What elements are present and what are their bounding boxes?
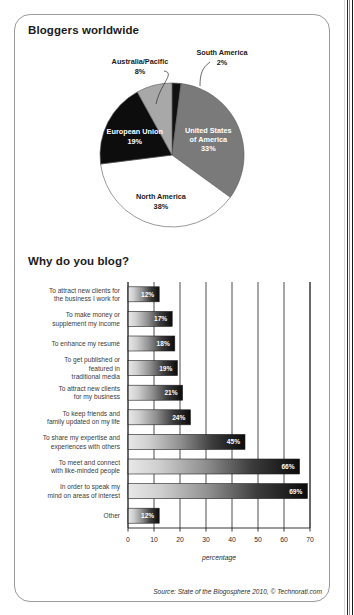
pie-chart: United Statesof America33%European Union…: [14, 38, 330, 243]
source-note: Source: State of the Blogosphere 2010, ©…: [153, 588, 322, 595]
bar-category-label: featured in: [89, 365, 120, 372]
bar-value-label: 66%: [281, 463, 294, 470]
bar-category-label: experiences with others: [51, 443, 121, 451]
pie-leader-line: [200, 62, 210, 86]
pie-label-text: United States: [185, 126, 232, 135]
bar-category-label: mind on areas of interest: [47, 492, 120, 499]
bar-category-label: In order to speak my: [60, 483, 121, 491]
bar-category-label: To share my expertise and: [43, 434, 121, 442]
bar-value-label: 45%: [227, 438, 240, 445]
pie-chart-svg: United Statesof America33%European Union…: [14, 38, 330, 243]
bar-value-label: 12%: [141, 291, 154, 298]
x-axis-tick-label: 40: [228, 536, 236, 543]
page-edge-line: [347, 0, 348, 615]
pie-label-text: North America: [136, 192, 187, 201]
bar-category-label: traditional media: [72, 373, 121, 380]
bar-category-label: for my business: [74, 393, 121, 401]
bar-value-label: 17%: [154, 315, 167, 322]
x-axis-tick-label: 20: [176, 536, 184, 543]
pie-label-text: 33%: [201, 144, 216, 153]
x-axis-tick-label: 50: [254, 536, 262, 543]
bar-category-label: supplement my income: [52, 320, 120, 328]
pie-label-text: European Union: [107, 127, 163, 136]
pie-callout-value: 8%: [135, 67, 146, 76]
x-axis-tick-label: 0: [126, 536, 130, 543]
bar-category-label: To make money or: [66, 311, 121, 319]
bar-category-labels: To attract new clients forthe business I…: [43, 287, 121, 520]
bar-category-label: with like-minded people: [50, 467, 120, 475]
bar-category-label: the business I work for: [54, 295, 121, 302]
x-axis-tick-label: 30: [202, 536, 210, 543]
pie-label-text: 38%: [154, 202, 169, 211]
x-axis-tick-label: 10: [150, 536, 158, 543]
page-edge-line: [344, 0, 345, 615]
bar-chart-svg: To attract new clients forthe business I…: [14, 272, 330, 572]
page-edge-line: [349, 0, 350, 615]
pie-label-text: of America: [190, 135, 228, 144]
bar-chart: To attract new clients forthe business I…: [14, 272, 330, 572]
bar-category-label: To attract new clients for: [49, 287, 121, 294]
bar-category-label: To keep friends and: [62, 410, 120, 418]
bar-category-label: To enhance my resumé: [51, 340, 120, 348]
pie-callout-value: 2%: [217, 58, 228, 67]
bar-section-title: Why do you blog?: [28, 255, 129, 267]
pie-callout-label: South America: [196, 48, 248, 57]
bar-value-label: 69%: [289, 488, 302, 495]
bar-category-label: family updated on my life: [47, 418, 120, 426]
bar-value-label: 24%: [172, 414, 185, 421]
x-axis-title: percentage: [201, 554, 236, 562]
bar-category-label: To get published or: [64, 356, 121, 364]
bar-category-label: To attract new clients: [58, 385, 120, 392]
infographic-page: Bloggers worldwide United Statesof Ameri…: [0, 0, 354, 615]
bar-value-label: 12%: [141, 512, 154, 519]
x-axis-tick-label: 60: [280, 536, 288, 543]
bar: [128, 459, 300, 474]
page-edge-line: [352, 0, 353, 615]
bar-category-label: Other: [104, 512, 121, 519]
bar-value-label: 21%: [164, 389, 177, 396]
pie-section-title: Bloggers worldwide: [28, 24, 139, 36]
pie-label-text: 19%: [127, 137, 142, 146]
pie-callout-label: Australia/Pacific: [112, 57, 169, 66]
pie-slices: [100, 83, 244, 227]
bar: [128, 484, 307, 499]
bar-category-label: To meet and connect: [59, 459, 120, 466]
bar-value-label: 18%: [157, 340, 170, 347]
x-axis-tick-label: 70: [306, 536, 314, 543]
bar-value-label: 19%: [159, 365, 172, 372]
